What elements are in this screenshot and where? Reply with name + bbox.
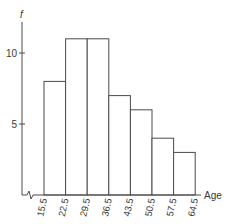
histogram-bar	[66, 39, 88, 195]
histogram-bar	[130, 110, 152, 195]
x-tick-label: 22.5	[56, 197, 71, 217]
histogram-bar	[87, 39, 109, 195]
histogram-bar	[174, 152, 196, 195]
x-tick-label: 50.5	[142, 197, 157, 217]
x-tick-label: 43.5	[121, 197, 136, 217]
histogram-bar	[44, 81, 66, 195]
x-tick-label: 57.5	[164, 197, 179, 217]
histogram-bar	[152, 138, 174, 195]
x-tick-label: 15.5	[34, 197, 49, 217]
y-tick-label: 5	[11, 119, 17, 130]
y-axis-label: f	[20, 9, 24, 20]
bars-group	[44, 39, 195, 195]
x-axis-label: Age	[204, 190, 222, 201]
x-tick-label: 64.5	[186, 197, 201, 217]
x-tick-label: 36.5	[99, 197, 114, 217]
x-tick-label: 29.5	[78, 197, 93, 217]
histogram-chart: 510 15.522.529.536.543.550.557.564.5 f A…	[0, 0, 231, 224]
histogram-bar	[109, 96, 131, 195]
x-ticks-group: 15.522.529.536.543.550.557.564.5	[34, 197, 200, 217]
y-tick-label: 10	[6, 48, 18, 59]
